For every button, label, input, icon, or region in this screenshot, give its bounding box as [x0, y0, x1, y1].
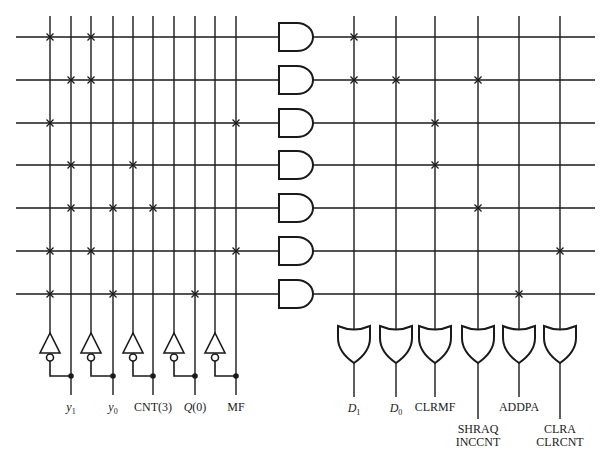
output-label-clra-clrcnt: CLRACLRCNT — [536, 423, 583, 449]
junction-dot — [151, 374, 155, 378]
input-inverters — [40, 333, 238, 378]
junction-dot — [234, 374, 238, 378]
output-label-shraq-inccnt: SHRAQINCCNT — [456, 423, 501, 449]
inverter-input-wire — [215, 361, 236, 376]
junction-dot — [193, 374, 197, 378]
inverter-input-wire — [133, 361, 153, 376]
or-gate-icon — [544, 326, 576, 363]
inverter-input-wire — [174, 361, 195, 376]
output-label-d0: D0 — [390, 402, 403, 419]
input-label-cnt3: CNT(3) — [134, 401, 172, 414]
inverter-bubble-icon — [88, 354, 95, 361]
inverter-input-wire — [91, 361, 113, 376]
input-label-y0: y0 — [108, 401, 117, 418]
inverter-bubble-icon — [130, 354, 137, 361]
and-gate-icon — [279, 151, 313, 179]
inverter-icon — [123, 333, 143, 353]
input-label-y1: y1 — [66, 401, 75, 418]
and-plane — [16, 16, 279, 395]
inverter-icon — [40, 333, 60, 353]
junction-dot — [69, 374, 73, 378]
or-gate-icon — [338, 326, 370, 363]
and-gate-icon — [279, 280, 313, 308]
input-label-q0: Q(0) — [184, 401, 207, 414]
inverter-bubble-icon — [212, 354, 219, 361]
inverter-icon — [205, 333, 225, 353]
junction-dot — [111, 374, 115, 378]
and-gate-icon — [279, 194, 313, 222]
and-gates — [279, 23, 313, 308]
pla-diagram — [0, 0, 605, 464]
and-gate-icon — [279, 66, 313, 94]
and-gate-icon — [279, 237, 313, 265]
or-gate-icon — [462, 326, 494, 363]
output-label-addpa: ADDPA — [499, 401, 539, 414]
output-label-d1: D1 — [348, 402, 361, 419]
or-gate-icon — [419, 326, 451, 363]
inverter-icon — [81, 333, 101, 353]
and-gate-icon — [279, 109, 313, 137]
input-label-mf: MF — [227, 401, 244, 414]
and-gate-icon — [279, 23, 313, 51]
inverter-bubble-icon — [47, 354, 54, 361]
inverter-input-wire — [50, 361, 71, 376]
or-gate-icon — [503, 326, 535, 363]
inverter-icon — [164, 333, 184, 353]
or-gates — [338, 326, 576, 363]
output-label-clrmf: CLRMF — [415, 401, 456, 414]
or-gate-icon — [380, 326, 412, 363]
inverter-bubble-icon — [171, 354, 178, 361]
